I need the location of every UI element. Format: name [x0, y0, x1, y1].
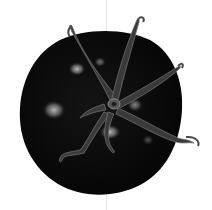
highlight: [99, 124, 121, 140]
tomato-illustration: [0, 0, 212, 210]
highlight: [142, 135, 154, 145]
highlight: [68, 62, 86, 76]
stem-center: [112, 102, 117, 106]
highlight: [42, 100, 66, 120]
image-canvas: [0, 0, 212, 210]
highlight: [94, 57, 106, 67]
